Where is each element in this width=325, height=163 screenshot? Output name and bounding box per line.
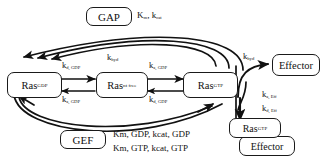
gap-k-sub: cat <box>156 15 162 20</box>
label-kd-gdp-bottom-right: kd, GDP <box>149 94 167 104</box>
gef-line1-text: Km, GDP, kcat, GDP <box>113 129 190 139</box>
node-gef-label: GEF <box>73 134 94 146</box>
node-ras-gdp-name: Ras <box>21 80 37 91</box>
ka-eff-sub: a, Eff <box>266 94 276 99</box>
arc-gef-outer <box>19 97 212 126</box>
label-gef-constants-line2: Km, GTP, kcat, GTP <box>113 143 188 153</box>
node-ras-gdp[interactable]: RasGDP <box>7 72 62 98</box>
node-ras-nt-free-state: nt free <box>123 83 137 88</box>
node-effector-label: Effector <box>279 60 313 71</box>
node-gef[interactable]: GEF <box>60 130 106 149</box>
node-gap-label: GAP <box>98 11 120 23</box>
kd-gdp-br-sub: d, GDP <box>153 99 167 104</box>
node-ras-gtp[interactable]: RasGTP <box>183 72 238 98</box>
node-complex-ras-gtp[interactable]: RasGTP <box>229 118 281 138</box>
node-ras-gdp-state: GDP <box>37 83 47 88</box>
node-ras-nt-free-name: Ras <box>107 80 123 91</box>
gap-K: K <box>137 10 144 20</box>
kd-eff-sub: d, Eff <box>266 108 277 113</box>
label-ka-eff: ka, Eff <box>262 89 277 99</box>
label-gef-constants-line1: Km, GDP, kcat, GDP <box>113 129 190 139</box>
label-khyd-center: khyd <box>107 52 118 62</box>
node-ras-nt-free[interactable]: Rasnt free <box>96 72 148 98</box>
khyd-center-sub: hyd <box>111 57 118 62</box>
node-ras-gtp-state: GTP <box>214 83 224 88</box>
node-complex-effector-label: Effector <box>251 141 284 152</box>
label-khyd-right: khyd <box>243 51 254 61</box>
node-complex-effector[interactable]: Effector <box>239 136 295 156</box>
khyd-right-sub: hyd <box>247 56 254 61</box>
node-complex-ras-gtp-state: GTP <box>258 126 268 131</box>
kd-gdp-tl-sub: d, GDP <box>66 65 80 70</box>
label-kd-gdp-top-left: kd, GDP <box>62 60 80 70</box>
node-gap[interactable]: GAP <box>86 7 132 26</box>
arc-gef-head-right <box>198 104 213 112</box>
label-ka-gdp-bottom-left: ka, GDP <box>62 94 80 104</box>
node-effector[interactable]: Effector <box>272 54 320 76</box>
gef-line2-text: Km, GTP, kcat, GTP <box>113 143 188 153</box>
label-gap-constants: Km, kcat <box>137 10 162 20</box>
label-kd-eff: kd, Eff <box>262 103 277 113</box>
gap-K-sub: m <box>144 15 148 20</box>
node-ras-gtp-name: Ras <box>198 80 214 91</box>
ka-gdp-tr-sub: a, GDP <box>153 65 167 70</box>
ka-gdp-bl-sub: a, GDP <box>66 99 80 104</box>
diagram-canvas: GAP GEF RasGDP Rasnt free RasGTP Effecto… <box>0 0 325 163</box>
label-ka-gdp-top-right: ka, GDP <box>149 60 167 70</box>
node-complex-ras-gtp-name: Ras <box>243 123 258 134</box>
